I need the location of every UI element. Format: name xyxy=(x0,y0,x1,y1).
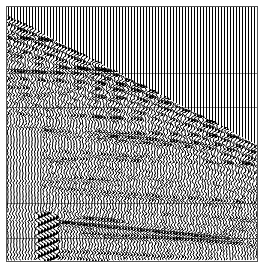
seismic-plot-frame xyxy=(6,6,258,262)
seismic-wiggle-canvas xyxy=(7,7,257,261)
